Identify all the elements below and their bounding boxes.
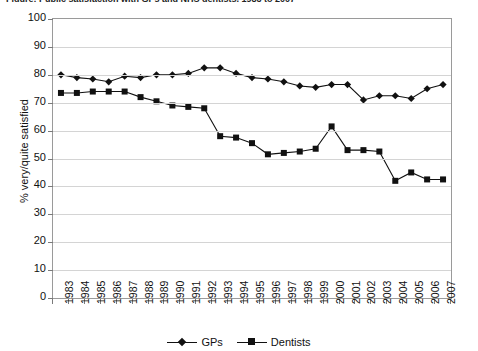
data-point-diamond	[121, 73, 128, 80]
x-tick-label: 1988	[144, 281, 155, 304]
data-point-diamond	[201, 64, 208, 71]
y-tick-label: 60	[20, 124, 46, 135]
series-line	[61, 68, 443, 100]
data-point-square	[265, 151, 271, 157]
x-tick-label: 1998	[303, 281, 314, 304]
data-point-diamond	[296, 82, 303, 89]
data-point-square	[185, 104, 191, 110]
x-tick-label: 1986	[112, 281, 123, 304]
data-point-square	[106, 89, 112, 95]
x-tick-label: 2003	[382, 281, 393, 304]
data-point-diamond	[424, 85, 431, 92]
data-point-square	[408, 169, 414, 175]
data-point-square	[233, 135, 239, 141]
x-tick-label: 1984	[80, 281, 91, 304]
x-tick-label: 1993	[223, 281, 234, 304]
x-tick-label: 1985	[96, 281, 107, 304]
gridline	[53, 242, 451, 243]
data-point-diamond	[105, 78, 112, 85]
data-point-diamond	[312, 84, 319, 91]
x-tick-label: 2001	[351, 281, 362, 304]
data-point-square	[201, 105, 207, 111]
data-point-square	[74, 90, 80, 96]
x-tick-label: 1992	[207, 281, 218, 304]
data-point-square	[297, 149, 303, 155]
y-tick-label: 50	[20, 152, 46, 163]
data-point-diamond	[89, 75, 96, 82]
data-point-diamond	[408, 95, 415, 102]
gridline	[53, 103, 451, 104]
data-point-square	[122, 89, 128, 95]
data-point-square	[281, 150, 287, 156]
line-chart: Figure: Public satisfaction with GPs and…	[0, 0, 478, 351]
data-point-diamond	[232, 70, 239, 77]
gridline	[53, 47, 451, 48]
legend-marker-diamond-icon	[178, 338, 186, 346]
data-point-square	[313, 146, 319, 152]
data-point-square	[329, 123, 335, 129]
y-tick-label: 20	[20, 235, 46, 246]
data-point-diamond	[185, 70, 192, 77]
chart-legend: GPsDentists	[0, 333, 478, 351]
data-point-square	[424, 176, 430, 182]
series-line	[61, 92, 443, 181]
gridline	[53, 214, 451, 215]
x-tick-label: 1995	[255, 281, 266, 304]
data-point-diamond	[392, 92, 399, 99]
y-tick-label: 30	[20, 207, 46, 218]
legend-entry-dentists[interactable]: Dentists	[237, 336, 311, 348]
data-point-square	[138, 94, 144, 100]
y-tick-label: 0	[20, 291, 46, 302]
y-tick-label: 40	[20, 179, 46, 190]
chart-title: Figure: Public satisfaction with GPs and…	[6, 0, 295, 2]
legend-marker-square-icon	[248, 338, 255, 345]
gridline	[53, 131, 451, 132]
data-point-diamond	[328, 81, 335, 88]
x-tick-label: 2006	[430, 281, 441, 304]
data-point-square	[392, 178, 398, 184]
y-tick-mark	[48, 19, 53, 20]
data-point-diamond	[264, 75, 271, 82]
x-tick-label: 1994	[239, 281, 250, 304]
data-point-square	[376, 149, 382, 155]
y-tick-label: 90	[20, 40, 46, 51]
data-point-square	[249, 140, 255, 146]
data-point-diamond	[217, 64, 224, 71]
data-point-diamond	[439, 81, 446, 88]
legend-label: Dentists	[271, 336, 311, 348]
x-tick-label: 1996	[271, 281, 282, 304]
gridline	[53, 159, 451, 160]
data-point-square	[58, 90, 64, 96]
x-tick-label: 1987	[128, 281, 139, 304]
data-point-square	[440, 176, 446, 182]
x-tick-label: 2005	[414, 281, 425, 304]
legend-entry-gps[interactable]: GPs	[167, 336, 222, 348]
gridline	[53, 75, 451, 76]
y-tick-label: 70	[20, 96, 46, 107]
x-tick-label: 1997	[287, 281, 298, 304]
x-tick-label: 2007	[446, 281, 457, 304]
data-point-square	[360, 147, 366, 153]
legend-swatch-square-icon	[237, 337, 267, 347]
data-point-square	[345, 147, 351, 153]
plot-area	[52, 18, 452, 299]
legend-swatch-diamond-icon	[167, 337, 197, 347]
series-gps	[57, 64, 446, 103]
data-point-diamond	[280, 78, 287, 85]
y-tick-label: 100	[20, 12, 46, 23]
x-tick-label: 1983	[64, 281, 75, 304]
x-tick-label: 1989	[159, 281, 170, 304]
data-point-square	[90, 89, 96, 95]
x-tick-label: 1999	[319, 281, 330, 304]
data-point-diamond	[376, 92, 383, 99]
data-point-square	[217, 133, 223, 139]
x-tick-label: 1990	[175, 281, 186, 304]
gridline	[53, 186, 451, 187]
gridline	[53, 270, 451, 271]
x-tick-label: 2002	[366, 281, 377, 304]
y-tick-label: 80	[20, 68, 46, 79]
y-tick-label: 10	[20, 263, 46, 274]
x-tick-label: 1991	[191, 281, 202, 304]
x-tick-label: 2000	[335, 281, 346, 304]
legend-label: GPs	[201, 336, 222, 348]
